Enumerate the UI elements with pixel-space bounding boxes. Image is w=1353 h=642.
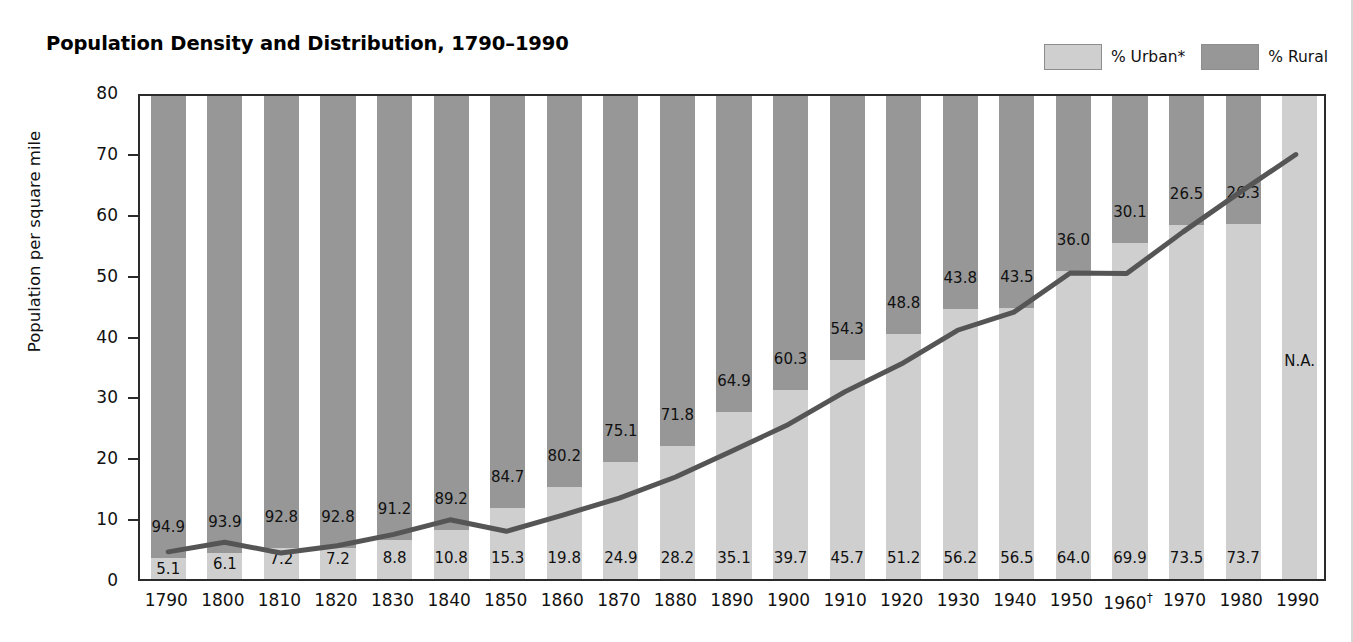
plot-area: 94.95.193.96.192.87.292.87.291.28.889.21… [138,94,1326,581]
y-tick-label: 20 [78,450,118,467]
y-tick-mark [128,458,138,460]
chart-legend: % Urban* % Rural [1044,44,1328,70]
y-tick-mark [128,276,138,278]
x-tick-label: 1890 [702,592,762,609]
y-tick-label: 10 [78,511,118,528]
y-tick-mark [128,337,138,339]
x-tick-label: 1940 [985,592,1045,609]
x-tick-label: 1930 [928,592,988,609]
legend-label-urban: % Urban* [1111,48,1185,66]
legend-item-urban: % Urban* [1044,44,1185,70]
density-line [168,155,1296,553]
x-tick-label: 1920 [872,592,932,609]
y-tick-label: 50 [78,268,118,285]
x-tick-label: 1950 [1041,592,1101,609]
density-line-layer [140,96,1324,579]
x-tick-label: 1820 [306,592,366,609]
x-tick-label: 1830 [363,592,423,609]
y-tick-mark [128,397,138,399]
x-tick-label: 1970 [1155,592,1215,609]
x-tick-label: 1790 [136,592,196,609]
y-tick-mark [128,154,138,156]
chart-figure: Population Density and Distribution, 179… [0,0,1353,642]
legend-label-rural: % Rural [1268,48,1328,66]
y-tick-label: 0 [78,572,118,589]
legend-item-rural: % Rural [1201,44,1328,70]
x-tick-label: 1990 [1268,592,1328,609]
x-tick-label: 1840 [419,592,479,609]
y-tick-mark [128,519,138,521]
footnote-dagger: † [1147,591,1153,605]
y-axis-label: Population per square mile [25,32,44,452]
chart-title: Population Density and Distribution, 179… [46,32,569,55]
x-tick-label: 1960† [1095,592,1161,612]
y-tick-label: 30 [78,389,118,406]
x-tick-label: 1860 [532,592,592,609]
legend-swatch-urban [1044,44,1102,70]
y-tick-label: 40 [78,329,118,346]
x-tick-label: 1900 [759,592,819,609]
x-tick-label: 1910 [815,592,875,609]
x-tick-label: 1980 [1211,592,1271,609]
x-tick-label: 1800 [193,592,253,609]
x-tick-label: 1810 [249,592,309,609]
y-tick-label: 70 [78,146,118,163]
y-tick-mark [128,215,138,217]
y-tick-label: 60 [78,207,118,224]
legend-swatch-rural [1201,44,1259,70]
x-tick-label: 1850 [476,592,536,609]
x-tick-label: 1870 [589,592,649,609]
y-tick-label: 80 [78,85,118,102]
x-tick-label: 1880 [645,592,705,609]
